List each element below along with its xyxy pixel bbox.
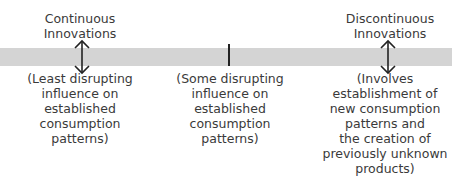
continuous-innovations-title: Continuous Innovations: [10, 11, 150, 41]
discontinuous-description: (Involves establishment of new consumpti…: [300, 71, 470, 176]
continuous-description: (Least disrupting influence on establish…: [0, 71, 160, 146]
discontinuous-innovations-title: Discontinuous Innovations: [320, 11, 460, 41]
double-arrow-icon: [72, 39, 92, 75]
midpoint-tick: [228, 44, 230, 66]
double-arrow-icon: [378, 39, 398, 75]
dynamically-continuous-description: (Some disrupting influence on establishe…: [160, 71, 300, 146]
